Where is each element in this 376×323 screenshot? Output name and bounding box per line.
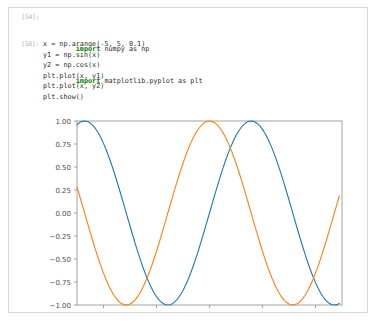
code-cell-2[interactable]: [58]: x = np.arange(-5, 5, 0.1) y1 = np.… [9,39,367,103]
figure-output: 1.000.750.500.250.00−0.25−0.50−0.75−1.00… [29,105,359,310]
y-tick-label: −0.50 [50,256,71,264]
cell-prompt-2: [58]: [9,39,43,50]
code-input-2[interactable]: x = np.arange(-5, 5, 0.1) y1 = np.sin(x)… [43,39,367,103]
cell-prompt-1: [54]: [9,12,43,23]
y-tick-label: 0.50 [55,164,71,172]
y-tick-label: 0.25 [55,187,71,195]
notebook-cell: [54]: import numpy as np import matplotl… [8,7,368,313]
matplotlib-figure: 1.000.750.500.250.00−0.25−0.50−0.75−1.00… [29,105,359,310]
y-tick-label: 0.75 [55,141,71,149]
y-tick-label: −0.75 [50,279,71,287]
y-tick-label: 1.00 [55,118,71,126]
y-tick-label: −0.25 [50,233,71,241]
y-tick-label: 0.00 [55,210,71,218]
y-tick-label: −1.00 [50,302,71,310]
